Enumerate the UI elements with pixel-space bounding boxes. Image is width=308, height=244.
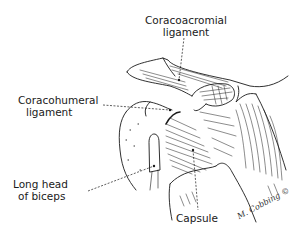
coracoacromial-label-line1: Coracoacromial: [140, 14, 232, 26]
capsule-label: Capsule: [176, 212, 218, 224]
coracoacromial-ligament-label: Coracoacromial ligament: [140, 14, 232, 38]
coracohumeral-label-line2: ligament: [18, 106, 98, 118]
coracoacromial-leader: [179, 38, 184, 80]
coracohumeral-leader: [103, 105, 170, 110]
biceps-leader: [88, 166, 154, 191]
biceps-label-line2: of biceps: [13, 190, 68, 202]
coracohumeral-ligament-label: Coracohumeral ligament: [18, 94, 98, 118]
coracoacromial-label-line2: ligament: [140, 26, 232, 38]
biceps-label-line1: Long head: [13, 178, 68, 190]
coracohumeral-label-line1: Coracohumeral: [18, 94, 98, 106]
long-head-of-biceps-label: Long head of biceps: [13, 178, 68, 202]
shoulder-anatomy-figure: Coracoacromial ligament Coracohumeral li…: [0, 0, 308, 244]
